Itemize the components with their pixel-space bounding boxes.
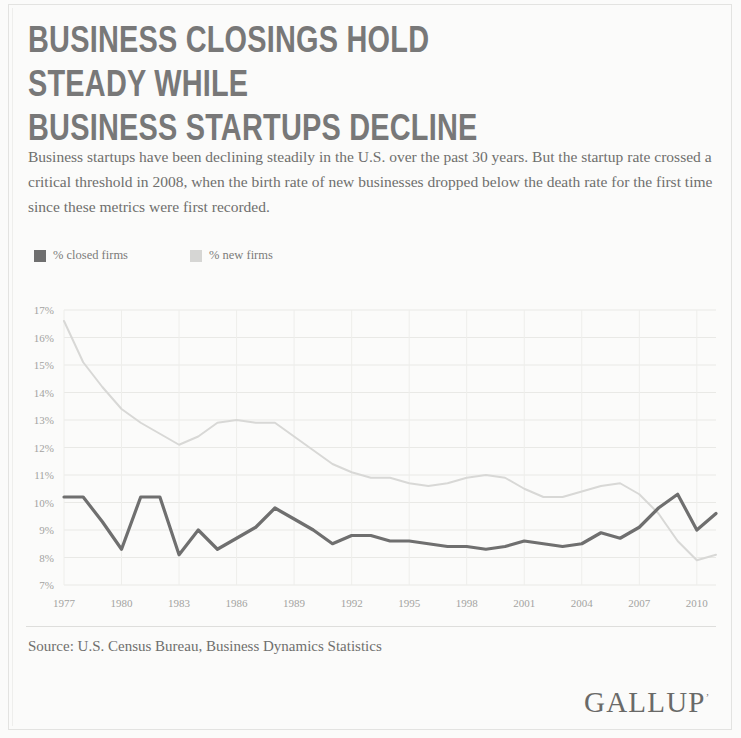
trademark-symbol: ’ bbox=[706, 692, 709, 703]
x-axis-tick-label: 2010 bbox=[686, 597, 709, 609]
x-axis-tick-label: 1986 bbox=[226, 597, 249, 609]
legend-swatch-new-firms-icon bbox=[190, 250, 202, 262]
x-axis-tick-label: 2001 bbox=[513, 597, 535, 609]
chart-series-lines bbox=[64, 321, 716, 560]
series-line-new-firms bbox=[64, 321, 716, 560]
y-axis-tick-label: 13% bbox=[34, 414, 54, 426]
legend-label-new-firms: % new firms bbox=[209, 248, 273, 263]
chart-subtitle: Business startups have been declining st… bbox=[28, 144, 718, 219]
x-axis-tick-label: 2007 bbox=[628, 597, 651, 609]
footer-divider bbox=[26, 626, 716, 627]
chart-legend: % closed firms % new firms bbox=[34, 248, 273, 263]
series-line-closed-firms bbox=[64, 494, 716, 555]
source-note: Source: U.S. Census Bureau, Business Dyn… bbox=[28, 638, 382, 655]
y-axis-tick-label: 16% bbox=[34, 332, 54, 344]
x-axis-tick-label: 1992 bbox=[341, 597, 363, 609]
x-axis-tick-label: 2004 bbox=[571, 597, 594, 609]
y-axis-tick-label: 17% bbox=[34, 304, 54, 316]
legend-label-closed-firms: % closed firms bbox=[53, 248, 128, 263]
x-axis-tick-label: 1983 bbox=[168, 597, 191, 609]
page-title: BUSINESS CLOSINGS HOLD STEADY WHILE BUSI… bbox=[28, 18, 543, 150]
gallup-logo: GALLUP’ bbox=[584, 686, 709, 719]
chart-vertical-gridlines bbox=[64, 310, 697, 585]
x-axis-tick-label: 1998 bbox=[456, 597, 479, 609]
y-axis-tick-label: 10% bbox=[34, 497, 54, 509]
y-axis-tick-labels: 17%16%15%14%13%12%11%10%9%8%7% bbox=[34, 304, 54, 591]
legend-swatch-closed-firms-icon bbox=[34, 250, 46, 262]
y-axis-tick-label: 15% bbox=[34, 359, 54, 371]
x-axis-tick-label: 1977 bbox=[53, 597, 76, 609]
x-axis-tick-label: 1980 bbox=[111, 597, 134, 609]
y-axis-tick-label: 11% bbox=[34, 469, 54, 481]
chart-gridlines bbox=[64, 310, 716, 585]
gallup-wordmark: GALLUP bbox=[584, 686, 706, 718]
legend-item-new-firms[interactable]: % new firms bbox=[190, 248, 273, 263]
legend-item-closed-firms[interactable]: % closed firms bbox=[34, 248, 128, 263]
y-axis-tick-label: 14% bbox=[34, 387, 54, 399]
y-axis-tick-label: 7% bbox=[39, 579, 54, 591]
x-axis-tick-label: 1995 bbox=[398, 597, 421, 609]
y-axis-tick-label: 8% bbox=[39, 552, 54, 564]
x-axis-tick-labels: 1977198019831986198919921995199820012004… bbox=[53, 597, 708, 609]
x-axis-tick-label: 1989 bbox=[283, 597, 306, 609]
chart-page: BUSINESS CLOSINGS HOLD STEADY WHILE BUSI… bbox=[0, 0, 741, 738]
y-axis-tick-label: 12% bbox=[34, 442, 54, 454]
y-axis-tick-label: 9% bbox=[39, 524, 54, 536]
